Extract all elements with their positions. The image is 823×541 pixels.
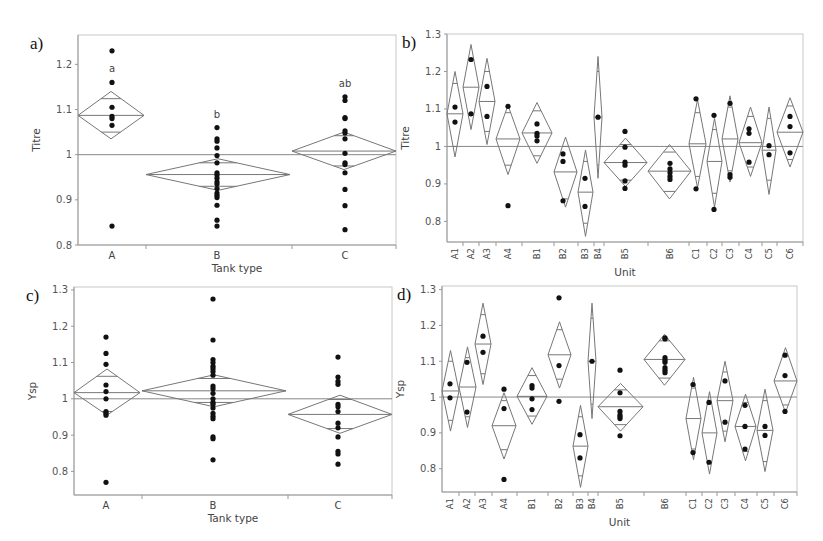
data-point — [556, 363, 561, 368]
y-tick-label: 0.8 — [56, 240, 72, 251]
data-point — [746, 160, 751, 165]
data-point — [109, 223, 114, 228]
category-group-c4: C4 — [739, 107, 762, 259]
category-group-a2: A2 — [459, 347, 476, 509]
data-point — [468, 57, 473, 62]
figure: a)0.80.911.11.2TitreTank typeaAbBabC b)0… — [0, 0, 823, 541]
data-point — [210, 391, 215, 396]
category-group-b5: B5 — [598, 368, 643, 510]
data-point — [505, 203, 510, 208]
y-tick-label: 1.1 — [52, 357, 68, 368]
data-point — [556, 295, 561, 300]
data-point — [452, 119, 457, 124]
data-point — [480, 350, 485, 355]
data-point — [109, 116, 114, 121]
means-diamond — [707, 118, 722, 207]
data-point — [662, 360, 667, 365]
data-point — [727, 101, 732, 106]
x-tick-label: C1 — [691, 248, 701, 259]
data-point — [706, 460, 711, 465]
category-group-b: bB — [146, 109, 290, 261]
x-tick-label: A2 — [466, 248, 476, 259]
x-tick-label: C4 — [740, 498, 750, 509]
data-point — [214, 223, 219, 228]
panel-d-ysp-by-unit: d)0.80.911.11.21.3YspUnitA1A2A3A4B1B2B3B… — [394, 284, 797, 528]
x-tick-label: A — [109, 250, 116, 261]
category-group-c3: C3 — [722, 96, 738, 260]
x-tick-label: B — [210, 500, 217, 511]
data-point — [342, 151, 347, 156]
data-point — [335, 434, 340, 439]
category-group-b3: B3 — [578, 150, 593, 259]
x-tick-label: B1 — [532, 248, 542, 259]
category-group-a1: A1 — [447, 71, 463, 259]
y-tick-label: 1.3 — [425, 29, 441, 40]
y-tick-label: 0.9 — [56, 194, 72, 205]
means-diamond — [739, 107, 762, 176]
x-tick-label: B5 — [620, 248, 630, 259]
data-point — [622, 186, 627, 191]
category-group-a4: A4 — [496, 104, 520, 260]
data-point — [690, 450, 695, 455]
data-point — [342, 187, 347, 192]
x-axis-title: Tank type — [207, 512, 259, 524]
y-tick-label: 0.9 — [420, 427, 436, 438]
data-point — [589, 359, 594, 364]
data-point — [210, 386, 215, 391]
data-point — [622, 129, 627, 134]
category-group-c6: C6 — [774, 348, 797, 510]
significance-letter: b — [214, 109, 220, 120]
category-group-c: abC — [292, 78, 396, 261]
data-point — [762, 433, 767, 438]
data-point — [214, 203, 219, 208]
data-point — [103, 480, 108, 485]
x-axis-title: Unit — [614, 266, 635, 278]
x-tick-label: C6 — [780, 498, 790, 509]
data-point — [103, 389, 108, 394]
category-group-b6: B6 — [644, 334, 685, 509]
category-group-c1: C1 — [689, 96, 706, 259]
x-tick-label: A3 — [478, 498, 488, 509]
y-tick-label: 1.2 — [425, 66, 441, 77]
significance-letter: ab — [339, 78, 351, 89]
category-group-b1: B1 — [517, 368, 547, 510]
data-point — [711, 207, 716, 212]
data-point — [335, 382, 340, 387]
data-point — [560, 198, 565, 203]
y-tick-label: 1.2 — [420, 320, 436, 331]
data-point — [109, 80, 114, 85]
y-tick-label: 0.8 — [420, 463, 436, 474]
data-point — [210, 416, 215, 421]
x-tick-label: A1 — [450, 248, 460, 259]
y-tick-label: 0.8 — [425, 216, 441, 227]
x-tick-label: A2 — [462, 498, 472, 509]
data-point — [529, 396, 534, 401]
x-tick-label: B6 — [665, 248, 675, 259]
data-point — [690, 382, 695, 387]
data-point — [529, 407, 534, 412]
data-point — [746, 131, 751, 136]
data-point — [210, 337, 215, 342]
data-point — [103, 396, 108, 401]
panel-a-titre-by-tank-type: a)0.80.911.11.2TitreTank typeaAbBabC — [30, 34, 396, 274]
data-point — [787, 150, 792, 155]
data-point — [447, 395, 452, 400]
data-point — [782, 373, 787, 378]
category-group-a2: A2 — [463, 44, 479, 259]
data-point — [214, 145, 219, 150]
data-point — [727, 175, 732, 180]
x-tick-label: C1 — [688, 498, 698, 509]
data-point — [560, 159, 565, 164]
panel-c-ysp-by-tank-type: c)0.80.911.11.21.3YspTank typeABC — [26, 284, 392, 524]
x-tick-label: C — [335, 500, 342, 511]
data-point — [722, 420, 727, 425]
y-axis-title: Ysp — [394, 379, 406, 399]
y-tick-label: 0.8 — [52, 466, 68, 477]
data-point — [501, 387, 506, 392]
data-point — [693, 186, 698, 191]
panel-label: c) — [26, 286, 39, 305]
category-group-b2: B2 — [554, 137, 577, 259]
data-point — [214, 160, 219, 165]
data-point — [335, 451, 340, 456]
data-point — [335, 462, 340, 467]
